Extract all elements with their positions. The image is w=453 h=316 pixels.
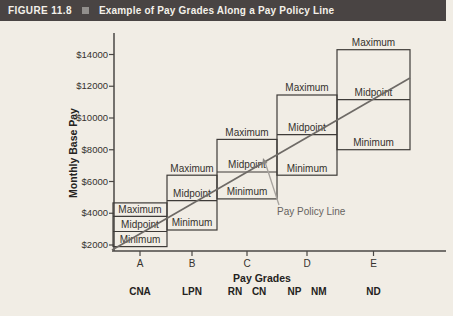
grade-D-minimum-label: Minimum (287, 163, 328, 175)
y-tick-label: $4000 (62, 207, 108, 219)
x-axis-title: Pay Grades (233, 272, 291, 284)
y-tick-label: $6000 (62, 176, 108, 188)
grade-D-job-label: NP NM (287, 286, 326, 298)
grade-A-maximum-label: Maximum (118, 204, 161, 216)
grade-E-job-label: ND (366, 286, 380, 298)
grade-E-midpoint-label: Midpoint (355, 87, 393, 99)
grade-C-midpoint-label: Midpoint (228, 159, 266, 171)
y-tick-label: $8000 (62, 144, 108, 156)
grade-D-midpoint-label: Midpoint (288, 122, 326, 134)
grade-D-maximum-label: Maximum (285, 82, 328, 94)
x-tick-label-E: E (370, 258, 377, 270)
grade-B-midpoint-label: Midpoint (173, 188, 211, 200)
x-tick-label-C: C (243, 258, 250, 270)
grade-A-job-label: CNA (129, 286, 151, 298)
x-tick-label-B: B (189, 258, 196, 270)
grade-B-minimum-label: Minimum (172, 217, 213, 229)
figure-11-8: FIGURE 11.8 Example of Pay Grades Along … (0, 0, 453, 316)
x-tick-label-A: A (137, 258, 144, 270)
grade-E-maximum-label: Maximum (352, 37, 395, 49)
grade-A-minimum-label: Minimum (120, 234, 161, 246)
grade-C-minimum-label: Minimum (227, 186, 268, 198)
y-tick-label: $2000 (62, 239, 108, 251)
grade-C-maximum-label: Maximum (225, 127, 268, 139)
x-tick-label-D: D (303, 258, 310, 270)
grade-B-job-label: LPN (182, 286, 202, 298)
grade-C-job-label: RN CN (228, 286, 267, 298)
y-tick-label: $12000 (62, 80, 108, 92)
grade-B-maximum-label: Maximum (170, 163, 213, 175)
y-tick-label: $14000 (62, 49, 108, 61)
chart-labels-layer: Monthly Base Pay Pay Grades Pay Policy L… (0, 0, 453, 316)
pay-policy-line-label: Pay Policy Line (277, 206, 345, 218)
grade-A-midpoint-label: Midpoint (121, 219, 159, 231)
y-tick-label: $10000 (62, 112, 108, 124)
grade-E-minimum-label: Minimum (353, 137, 394, 149)
